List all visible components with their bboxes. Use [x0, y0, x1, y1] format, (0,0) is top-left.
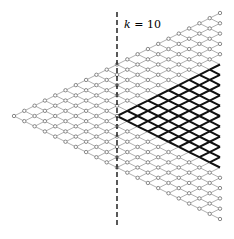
bold-edge: [148, 131, 158, 136]
lattice-node: [187, 27, 190, 30]
bold-edge: [179, 131, 189, 136]
bold-edge: [148, 126, 158, 131]
lattice-node: [126, 58, 129, 61]
bold-edge: [148, 111, 158, 116]
bold-edge: [158, 101, 168, 106]
bold-edge: [199, 90, 209, 95]
lattice-node: [84, 78, 87, 81]
bold-edge: [210, 75, 220, 80]
lattice-node: [136, 156, 139, 159]
lattice-node: [208, 192, 211, 195]
lattice-node: [177, 53, 180, 56]
lattice-node: [198, 32, 201, 35]
lattice-node: [95, 145, 98, 148]
lattice-node: [33, 125, 36, 128]
lattice-node: [218, 53, 221, 56]
bold-edge: [199, 111, 209, 116]
bold-edge: [189, 111, 199, 116]
lattice-node: [187, 68, 190, 71]
lattice-node: [126, 68, 129, 71]
bold-edge: [189, 126, 199, 131]
lattice-node: [43, 130, 46, 133]
lattice-node: [95, 94, 98, 97]
bold-edge: [199, 126, 209, 131]
bold-edge: [179, 142, 189, 147]
bold-edge: [158, 137, 168, 142]
lattice-node: [167, 192, 170, 195]
bold-edge: [158, 126, 168, 131]
bold-edge: [138, 126, 148, 131]
lattice-node: [126, 130, 129, 133]
bold-edge: [158, 95, 168, 100]
lattice-node: [126, 89, 129, 92]
bold-edge: [179, 95, 189, 100]
lattice-node: [167, 161, 170, 164]
bold-edge: [199, 80, 209, 85]
bold-edge: [138, 121, 148, 126]
lattice-node: [167, 37, 170, 40]
bold-edge: [210, 157, 220, 162]
lattice-node: [126, 171, 129, 174]
bold-edge: [189, 75, 199, 80]
bold-edge: [189, 101, 199, 106]
lattice-node: [74, 114, 77, 117]
lattice-node: [167, 181, 170, 184]
lattice-node: [43, 109, 46, 112]
bold-edge: [210, 95, 220, 100]
lattice-node: [136, 145, 139, 148]
lattice-node: [95, 83, 98, 86]
lattice-node: [157, 83, 160, 86]
lattice-node: [74, 94, 77, 97]
lattice-node: [208, 47, 211, 50]
bold-edge: [179, 147, 189, 152]
lattice-node: [105, 99, 108, 102]
lattice-node: [218, 42, 221, 45]
lattice-node: [95, 125, 98, 128]
lattice-node: [198, 42, 201, 45]
bold-edge: [210, 80, 220, 85]
lattice-node: [33, 104, 36, 107]
bold-edge: [169, 116, 179, 121]
lattice-node: [33, 114, 36, 117]
bold-edge: [210, 137, 220, 142]
lattice-node: [54, 125, 57, 128]
lattice-node: [198, 22, 201, 25]
lattice-node: [105, 140, 108, 143]
lattice-node: [187, 161, 190, 164]
lattice-node: [177, 73, 180, 76]
bold-edge: [179, 126, 189, 131]
lattice-node: [146, 171, 149, 174]
lattice-node: [43, 119, 46, 122]
lattice-node: [115, 73, 118, 76]
bold-edge: [158, 116, 168, 121]
lattice-node: [218, 11, 221, 14]
bold-edge: [138, 111, 148, 116]
lattice-node: [136, 135, 139, 138]
lattice-node: [146, 89, 149, 92]
lattice-node: [54, 114, 57, 117]
lattice-node: [198, 166, 201, 169]
lattice-node: [23, 119, 26, 122]
lattice-node: [146, 181, 149, 184]
lattice-node: [64, 140, 67, 143]
lattice-node: [23, 109, 26, 112]
lattice-node: [95, 156, 98, 159]
lattice-node: [198, 53, 201, 56]
bold-edge: [210, 126, 220, 131]
lattice-node: [157, 156, 160, 159]
bold-edge: [179, 137, 189, 142]
lattice-node: [146, 58, 149, 61]
bold-edge: [199, 152, 209, 157]
lattice-node: [157, 186, 160, 189]
bold-edge: [138, 106, 148, 111]
bold-edge: [210, 111, 220, 116]
lattice-node: [84, 119, 87, 122]
lattice-node: [167, 68, 170, 71]
lattice-node: [187, 171, 190, 174]
lattice-node: [74, 104, 77, 107]
bold-edge: [199, 147, 209, 152]
lattice-node: [218, 176, 221, 179]
lattice-node: [187, 202, 190, 205]
lattice-node: [105, 89, 108, 92]
lattice-node: [126, 78, 129, 81]
